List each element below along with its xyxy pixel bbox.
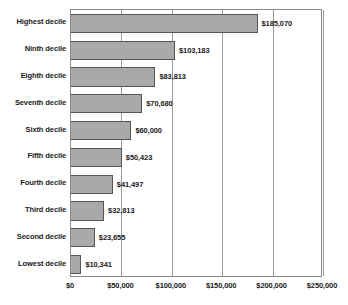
bar-row: $185,070 [71,14,321,33]
bar [71,148,122,167]
bar [71,228,95,247]
x-tick-label: $250,000 [307,281,337,290]
bar-row: $32,813 [71,201,321,220]
bar [71,41,175,60]
bar-value-label: $41,497 [117,180,143,189]
y-axis-label: Ninth decile [25,44,66,53]
y-axis-label: Fifth decile [28,151,66,160]
bar-row: $103,183 [71,41,321,60]
bar [71,201,104,220]
bar-value-label: $185,070 [262,19,292,28]
bar-value-label: $70,680 [146,99,172,108]
bar [71,94,142,113]
x-tick-label: $100,000 [156,281,186,290]
bar-value-label: $83,813 [159,72,185,81]
x-tick-label: $200,000 [256,281,286,290]
bar [71,67,155,86]
bar [71,14,258,33]
bar-row: $23,655 [71,228,321,247]
bar-value-label: $60,000 [135,126,161,135]
bar-value-label: $103,183 [179,46,209,55]
gridline-5 [323,10,324,276]
bar-row: $70,680 [71,94,321,113]
bar [71,121,131,140]
y-axis-label: Sixth decile [26,125,66,134]
y-axis-label: Lowest decile [18,259,66,268]
bar [71,255,81,274]
bar-row: $83,813 [71,67,321,86]
bar [71,175,113,194]
y-axis-label: Second decile [17,232,66,241]
y-axis-label: Fourth decile [20,178,66,187]
bars-layer: $185,070$103,183$83,813$70,680$60,000$50… [71,10,321,276]
bar-value-label: $50,423 [126,153,152,162]
bar-value-label: $32,813 [108,206,134,215]
y-axis-label: Third decile [25,205,66,214]
bar-row: $50,423 [71,148,321,167]
x-tick-label: $150,000 [206,281,236,290]
bar-row: $60,000 [71,121,321,140]
y-axis-label: Eighth decile [21,71,66,80]
x-axis-tick-labels: $0$50,000$100,000$150,000$200,000$250,00… [70,281,322,297]
x-tick-label: $50,000 [107,281,133,290]
x-tick-label: $0 [66,281,74,290]
y-axis-label: Highest decile [17,17,66,26]
bar-value-label: $10,341 [85,260,111,269]
y-axis-label: Seventh decile [15,98,66,107]
bar-row: $10,341 [71,255,321,274]
y-axis-category-labels: Highest decileNinth decileEighth decileS… [0,9,66,277]
bar-chart: Highest decileNinth decileEighth decileS… [0,0,348,305]
bar-value-label: $23,655 [99,233,125,242]
bar-row: $41,497 [71,175,321,194]
plot-area: $185,070$103,183$83,813$70,680$60,000$50… [70,9,322,277]
